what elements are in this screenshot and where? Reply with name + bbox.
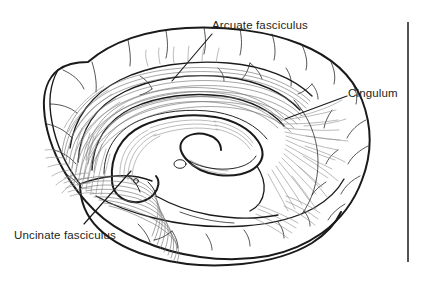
gyrus-divider-9 <box>204 28 206 54</box>
temporal-sulcus-4 <box>244 230 250 246</box>
uncinate-leader-line <box>84 171 131 224</box>
temporal-lobe-detail <box>138 196 320 250</box>
gyrus-divider-16 <box>348 146 368 164</box>
gyrus-divider-10 <box>240 29 242 55</box>
gyrus-divider-15 <box>347 120 366 138</box>
gyrus-divider-11 <box>272 34 275 60</box>
parahippocampal-contour <box>156 196 278 218</box>
label-cingulum: Cingulum <box>348 88 398 100</box>
brain-fiber-tract-figure: Arcuate fasciculus Cingulum Uncinate fas… <box>0 0 421 284</box>
gyrus-divider-2 <box>63 70 84 89</box>
arcuate-fasciculus-fibers <box>45 46 310 195</box>
temporal-sulcus-6 <box>304 211 310 226</box>
gyrus-divider-1 <box>92 62 96 92</box>
sylvian-fissure <box>80 176 152 184</box>
gyrus-divider-18 <box>328 204 345 220</box>
sulcus-branch-sup-2 <box>218 68 224 81</box>
brainstem-detail-group <box>128 176 156 195</box>
sulcus-branch-sup-4 <box>286 68 291 86</box>
cingulum-leader-line <box>285 96 347 119</box>
gyrus-divider-12 <box>302 45 307 70</box>
posterior-radiating-fibers <box>268 100 348 214</box>
temporal-sulcus-5 <box>278 222 284 238</box>
temporal-sulcus-3 <box>206 234 212 250</box>
concentric-arc-group <box>70 62 312 211</box>
label-arcuate-fasciculus: Arcuate fasciculus <box>212 20 308 32</box>
gyrus-divider-8 <box>166 31 168 58</box>
occipital-fan-boundary <box>294 100 318 214</box>
gyrus-divider-3 <box>50 104 77 113</box>
corpus-callosum-shading <box>120 120 253 182</box>
arcuate-leader-line <box>172 34 212 81</box>
corpus-callosum-contour <box>112 115 263 180</box>
gyrus-divider-7 <box>128 40 130 66</box>
sulcus-branch-post-2 <box>326 150 338 164</box>
thalamus-oval <box>174 160 186 169</box>
label-uncinate-fasciculus: Uncinate fasciculus <box>14 230 116 242</box>
splenium-underside <box>250 166 264 211</box>
thalamus-group <box>174 160 186 169</box>
